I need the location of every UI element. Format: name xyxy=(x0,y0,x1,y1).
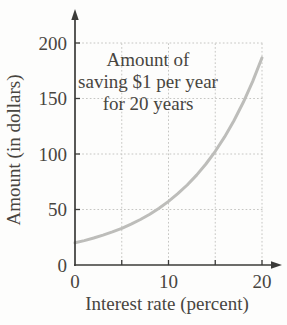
y-tick-label: 200 xyxy=(39,33,68,54)
y-axis-label: Amount (in dollars) xyxy=(3,75,25,226)
chart-canvas: 05010015020001020 Amount of saving $1 pe… xyxy=(0,0,287,325)
y-tick-label: 0 xyxy=(58,255,68,276)
chart-title-line-3: for 20 years xyxy=(103,93,194,114)
x-tick-label: 0 xyxy=(70,271,80,292)
y-axis-arrow-icon xyxy=(71,9,78,20)
y-tick-label: 50 xyxy=(48,199,67,220)
x-axis-arrow-icon xyxy=(271,261,282,268)
y-tick-label: 100 xyxy=(39,144,68,165)
chart-title-line-2: saving $1 per year xyxy=(78,71,218,92)
x-tick-label: 20 xyxy=(253,271,272,292)
chart-figure: 05010015020001020 Amount of saving $1 pe… xyxy=(0,0,287,325)
x-tick-label: 10 xyxy=(159,271,178,292)
axes xyxy=(71,9,282,269)
y-tick-label: 150 xyxy=(39,88,68,109)
chart-title-line-1: Amount of xyxy=(107,49,191,70)
x-axis-label: Interest rate (percent) xyxy=(85,293,249,315)
